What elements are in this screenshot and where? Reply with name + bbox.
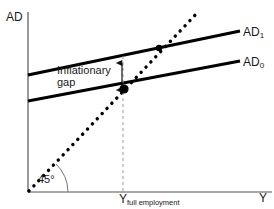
ad0-curve-label-text: AD xyxy=(243,55,260,69)
full-employment-label: Yfull employment xyxy=(119,193,180,206)
angle-label: 45° xyxy=(38,174,55,186)
ad0-curve-label-subscript: 0 xyxy=(260,61,264,70)
equilibrium-point-ad1 xyxy=(156,45,162,51)
inflationary-gap-label-line2: gap xyxy=(57,77,111,89)
equilibrium-point-ad0 xyxy=(119,84,128,93)
ad1-curve-label: AD1 xyxy=(243,26,264,39)
inflationary-gap-label: Inflationary gap xyxy=(57,65,111,88)
full-employment-label-subscript: full employment xyxy=(127,198,180,207)
ad0-curve-label: AD0 xyxy=(243,56,264,69)
y-axis-label: AD xyxy=(6,11,23,24)
angle-arc xyxy=(56,164,68,192)
full-employment-label-text: Y xyxy=(119,192,127,206)
ad1-curve-label-text: AD xyxy=(243,25,260,39)
inflationary-gap-diagram: AD AD1 AD0 Inflationary gap 45° Yfull em… xyxy=(0,0,274,209)
x-axis-label: Y xyxy=(259,192,267,205)
inflationary-gap-label-line1: Inflationary xyxy=(57,65,111,77)
forty-five-degree-line xyxy=(29,12,198,191)
ad1-curve-label-subscript: 1 xyxy=(260,31,264,40)
